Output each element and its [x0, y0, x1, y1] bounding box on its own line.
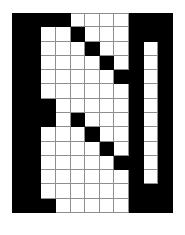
- grid-cell-empty: [41, 127, 56, 141]
- grid-cell-filled: [27, 84, 42, 98]
- grid-cell-empty: [100, 170, 115, 184]
- grid-cell-filled: [85, 42, 100, 56]
- grid-cell-empty: [56, 127, 71, 141]
- grid-cell-empty: [144, 56, 159, 70]
- grid-cell-filled: [158, 156, 173, 170]
- grid-cell-filled: [27, 113, 42, 127]
- grid-cell-empty: [114, 127, 129, 141]
- grid-cell-filled: [71, 27, 86, 41]
- grid-cell-filled: [27, 184, 42, 198]
- grid-cell-filled: [12, 142, 27, 156]
- grid-cell-empty: [144, 84, 159, 98]
- grid-cell-empty: [71, 184, 86, 198]
- grid-cell-empty: [100, 70, 115, 84]
- grid-cell-empty: [144, 156, 159, 170]
- grid-cell-filled: [12, 13, 27, 27]
- grid-cell-empty: [41, 156, 56, 170]
- grid-cell-empty: [85, 199, 100, 213]
- grid-cell-empty: [56, 27, 71, 41]
- grid-cell-filled: [12, 42, 27, 56]
- grid-cell-empty: [71, 142, 86, 156]
- grid-cell-empty: [144, 127, 159, 141]
- grid-cell-empty: [144, 142, 159, 156]
- grid-cell-filled: [158, 13, 173, 27]
- grid-cell-empty: [56, 170, 71, 184]
- grid-cell-filled: [129, 113, 144, 127]
- grid-cell-empty: [85, 56, 100, 70]
- grid-cell-empty: [56, 56, 71, 70]
- grid-cell-filled: [12, 70, 27, 84]
- grid-cell-empty: [71, 99, 86, 113]
- grid-cell-empty: [56, 156, 71, 170]
- grid-cell-filled: [129, 199, 144, 213]
- grid-cell-filled: [158, 184, 173, 198]
- grid-cell-empty: [71, 70, 86, 84]
- grid-cell-empty: [100, 42, 115, 56]
- grid-cell-filled: [100, 56, 115, 70]
- grid-cell-empty: [114, 27, 129, 41]
- grid-cell-filled: [12, 184, 27, 198]
- grid-cell-empty: [41, 142, 56, 156]
- grid-cell-filled: [129, 70, 144, 84]
- grid-cell-empty: [85, 84, 100, 98]
- grid-cell-filled: [144, 199, 159, 213]
- grid-cell-filled: [12, 113, 27, 127]
- grid-cell-filled: [85, 127, 100, 141]
- grid-cell-filled: [12, 27, 27, 41]
- grid-cell-empty: [100, 13, 115, 27]
- grid-cell-empty: [56, 184, 71, 198]
- grid-cell-empty: [100, 199, 115, 213]
- grid-cell-filled: [129, 127, 144, 141]
- grid-cell-empty: [144, 170, 159, 184]
- grid-cell-empty: [100, 156, 115, 170]
- grid-cell-empty: [71, 56, 86, 70]
- grid-cell-filled: [27, 70, 42, 84]
- grid-cell-filled: [12, 170, 27, 184]
- grid-cell-filled: [158, 42, 173, 56]
- grid-cell-empty: [144, 99, 159, 113]
- grid-cell-filled: [158, 199, 173, 213]
- grid-cell-empty: [114, 56, 129, 70]
- grid-cell-filled: [129, 42, 144, 56]
- grid-cell-filled: [12, 84, 27, 98]
- grid-cell-empty: [71, 170, 86, 184]
- grid-cell-empty: [85, 113, 100, 127]
- grid-cell-filled: [129, 170, 144, 184]
- grid-cell-empty: [41, 84, 56, 98]
- grid-cell-filled: [144, 13, 159, 27]
- grid-cell-empty: [85, 170, 100, 184]
- grid-cell-filled: [27, 156, 42, 170]
- grid-cell-filled: [129, 142, 144, 156]
- grid-cell-filled: [71, 113, 86, 127]
- grid-cell-filled: [12, 156, 27, 170]
- grid-cell-filled: [100, 142, 115, 156]
- grid-cell-empty: [41, 184, 56, 198]
- grid-cell-empty: [100, 99, 115, 113]
- grid-cell-filled: [158, 113, 173, 127]
- grid-cell-empty: [114, 99, 129, 113]
- grid-cell-filled: [129, 27, 144, 41]
- grid-cell-filled: [27, 199, 42, 213]
- grid-cell-filled: [12, 99, 27, 113]
- grid-cell-filled: [129, 84, 144, 98]
- grid-cell-empty: [114, 42, 129, 56]
- grid-cell-empty: [71, 84, 86, 98]
- grid-cell-filled: [158, 56, 173, 70]
- grid-cell-filled: [27, 170, 42, 184]
- grid-cell-empty: [100, 27, 115, 41]
- grid-cell-filled: [144, 184, 159, 198]
- grid-cell-empty: [71, 13, 86, 27]
- grid-cell-empty: [41, 56, 56, 70]
- grid-cell-empty: [41, 27, 56, 41]
- grid-cell-empty: [56, 199, 71, 213]
- grid-cell-empty: [114, 84, 129, 98]
- grid-cell-empty: [114, 142, 129, 156]
- grid-cell-empty: [144, 70, 159, 84]
- grid-cell-filled: [27, 127, 42, 141]
- grid-cell-filled: [56, 13, 71, 27]
- grid-cell-empty: [85, 70, 100, 84]
- figure-canvas: [0, 0, 185, 235]
- grid-cell-filled: [27, 142, 42, 156]
- grid-cell-empty: [71, 127, 86, 141]
- grid-cell-filled: [158, 142, 173, 156]
